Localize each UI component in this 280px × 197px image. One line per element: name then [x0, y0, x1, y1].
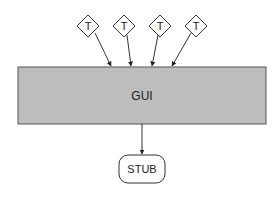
arrow-t2-to-gui: [127, 35, 131, 66]
arrow-t1-to-gui: [95, 33, 111, 66]
arrow-t4-to-gui: [172, 33, 191, 66]
input-node-label: T: [85, 20, 92, 32]
stub-node-label: STUB: [127, 163, 156, 175]
input-node-t2: T: [113, 15, 135, 37]
diagram-canvas: T T T T GUI STUB: [0, 0, 280, 197]
gui-box: GUI: [18, 67, 266, 124]
input-node-label: T: [121, 20, 128, 32]
input-node-t3: T: [149, 15, 171, 37]
gui-box-label: GUI: [131, 89, 152, 103]
stub-node: STUB: [119, 155, 165, 183]
arrow-t3-to-gui: [152, 35, 158, 66]
input-node-label: T: [193, 20, 200, 32]
input-node-label: T: [157, 20, 164, 32]
input-node-t4: T: [185, 15, 207, 37]
